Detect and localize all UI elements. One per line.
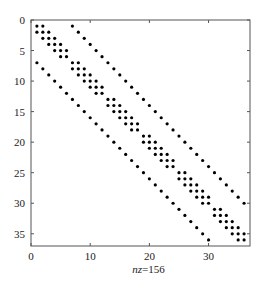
nonzero-marker — [77, 61, 80, 64]
y-tick-label: 0 — [20, 14, 26, 26]
nonzero-marker — [231, 232, 234, 235]
nonzero-marker — [195, 183, 198, 186]
y-tick-label: 10 — [14, 75, 26, 87]
nonzero-marker — [100, 92, 103, 95]
nonzero-marker — [225, 226, 228, 229]
nonzero-marker — [207, 238, 210, 241]
nonzero-marker — [148, 177, 151, 180]
nonzero-marker — [59, 43, 62, 46]
axis-ticks — [31, 20, 250, 246]
plot-area — [31, 20, 250, 246]
nonzero-marker — [154, 183, 157, 186]
nonzero-marker — [41, 31, 44, 34]
nonzero-marker — [118, 73, 121, 76]
nonzero-marker — [47, 73, 50, 76]
nonzero-marker — [112, 110, 115, 113]
nonzero-marker — [95, 122, 98, 125]
nonzero-marker — [195, 226, 198, 229]
nonzero-marker — [142, 141, 145, 144]
nonzero-marker — [59, 49, 62, 52]
nonzero-marker — [237, 232, 240, 235]
spy-plot: 0102030 05101520253035 nz=156 — [0, 0, 267, 284]
nonzero-marker — [225, 183, 228, 186]
nonzero-marker — [231, 220, 234, 223]
nonzero-marker — [201, 202, 204, 205]
nonzero-marker — [160, 153, 163, 156]
nonzero-marker — [225, 214, 228, 217]
nonzero-marker — [207, 165, 210, 168]
nonzero-marker — [71, 67, 74, 70]
nonzero-marker — [171, 159, 174, 162]
nonzero-marker — [124, 79, 127, 82]
nonzero-marker — [195, 196, 198, 199]
nonzero-marker — [35, 61, 38, 64]
nonzero-marker — [100, 55, 103, 58]
nonzero-marker — [83, 73, 86, 76]
y-tick-labels: 05101520253035 — [14, 14, 26, 240]
nonzero-marker — [154, 153, 157, 156]
nonzero-marker — [136, 122, 139, 125]
nonzero-marker — [53, 43, 56, 46]
nonzero-marker — [77, 73, 80, 76]
nonzero-marker — [177, 134, 180, 137]
nonzero-marker — [89, 43, 92, 46]
nonzero-marker — [242, 232, 245, 235]
nonzero-marker — [189, 189, 192, 192]
nonzero-marker — [213, 171, 216, 174]
nonzero-marker — [207, 202, 210, 205]
nonzero-marker — [166, 122, 169, 125]
nonzero-marker — [148, 147, 151, 150]
nonzero-marker — [71, 98, 74, 101]
nonzero-marker — [65, 49, 68, 52]
nonzero-marker — [136, 128, 139, 131]
nonzero-marker — [189, 183, 192, 186]
x-axis-label-rest: =156 — [142, 263, 165, 275]
nonzero-marker — [35, 31, 38, 34]
nonzero-marker — [171, 202, 174, 205]
nonzero-marker — [201, 189, 204, 192]
nonzero-marker — [95, 86, 98, 89]
nonzero-marker — [219, 208, 222, 211]
nonzero-marker — [183, 183, 186, 186]
nonzero-marker — [53, 79, 56, 82]
nonzero-marker — [41, 37, 44, 40]
nonzero-marker — [77, 104, 80, 107]
nonzero-marker — [53, 37, 56, 40]
nonzero-marker — [166, 159, 169, 162]
x-tick-label: 10 — [85, 250, 97, 262]
nonzero-marker — [242, 238, 245, 241]
nonzero-marker — [160, 189, 163, 192]
nonzero-marker — [130, 159, 133, 162]
nonzero-marker — [112, 141, 115, 144]
nonzero-marker — [130, 116, 133, 119]
nonzero-marker — [124, 122, 127, 125]
x-tick-label: 30 — [203, 250, 215, 262]
nonzero-marker — [213, 208, 216, 211]
nonzero-marker — [130, 128, 133, 131]
nonzero-marker — [177, 208, 180, 211]
nonzero-marker — [95, 49, 98, 52]
nonzero-marker — [112, 98, 115, 101]
nonzero-marker — [59, 86, 62, 89]
nonzero-marker — [219, 214, 222, 217]
nonzero-marker — [166, 165, 169, 168]
nonzero-marker — [124, 153, 127, 156]
nonzero-marker — [77, 31, 80, 34]
nonzero-marker — [148, 104, 151, 107]
nonzero-marker — [183, 171, 186, 174]
nonzero-marker — [71, 61, 74, 64]
nonzero-marker — [65, 55, 68, 58]
nonzero-marker — [219, 220, 222, 223]
nonzero-marker — [189, 177, 192, 180]
nonzero-marker — [35, 25, 38, 28]
nonzero-marker — [183, 214, 186, 217]
y-tick-label: 30 — [14, 197, 26, 209]
nonzero-marker — [183, 141, 186, 144]
nonzero-marker — [171, 165, 174, 168]
nonzero-marker — [83, 110, 86, 113]
nonzero-marker — [89, 79, 92, 82]
nonzero-markers — [35, 25, 245, 242]
x-axis-label: nz=156 — [132, 263, 165, 275]
nonzero-marker — [195, 189, 198, 192]
nonzero-marker — [142, 98, 145, 101]
